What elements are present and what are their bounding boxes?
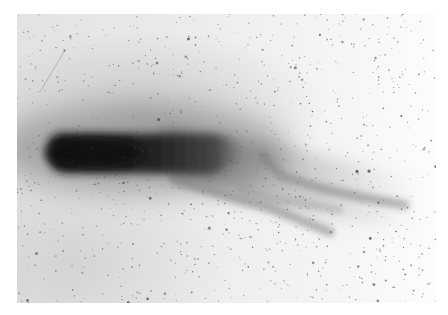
plate-scratch [40, 50, 65, 92]
comet-nucleus [45, 138, 145, 168]
comet-scene [17, 14, 436, 303]
comet-photograph [17, 14, 436, 303]
